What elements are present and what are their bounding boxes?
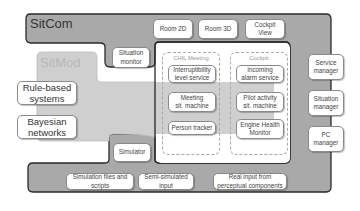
- rule-based-systems-box[interactable]: Rule-based systems: [17, 81, 77, 105]
- room-2d-box[interactable]: Room 2D: [153, 19, 193, 39]
- simulation-files-box[interactable]: Simulation files and scripts: [66, 173, 134, 190]
- semi-simulated-input-box[interactable]: Semi-simulated input: [138, 173, 194, 190]
- sitmod-title: SitMod: [40, 55, 80, 70]
- engine-health-monitor-box[interactable]: Engine Health Monitor: [236, 119, 284, 139]
- situation-monitor-box[interactable]: Situation monitor: [112, 47, 150, 68]
- simulator-box[interactable]: Simulator: [113, 143, 151, 162]
- service-manager-box[interactable]: Service manager: [308, 54, 344, 80]
- interruptibility-service-box[interactable]: Interruptibility level service: [168, 65, 216, 83]
- incoming-alarm-service-box[interactable]: Incoming alarm service: [236, 65, 284, 83]
- group-label-cockpit: Cockpit: [230, 55, 288, 61]
- meeting-sit-machine-box[interactable]: Meeting sit. machine: [168, 92, 216, 112]
- sitcom-title: SitCom: [30, 16, 73, 31]
- situation-manager-box[interactable]: Situation manager: [308, 90, 344, 116]
- real-input-box[interactable]: Real input from perceptual components: [213, 173, 287, 190]
- room-3d-box[interactable]: Room 3D: [198, 19, 238, 39]
- bayesian-networks-box[interactable]: Bayesian networks: [17, 115, 77, 139]
- group-label-chil-meeting: CHIL Meeting: [162, 55, 220, 61]
- pilot-activity-sit-machine-box[interactable]: Pilot activity sit. machine: [236, 92, 284, 112]
- cockpit-view-box[interactable]: Cockpit View: [245, 19, 285, 39]
- person-tracker-box[interactable]: Person tracker: [168, 121, 216, 135]
- pc-manager-box[interactable]: PC manager: [308, 126, 344, 152]
